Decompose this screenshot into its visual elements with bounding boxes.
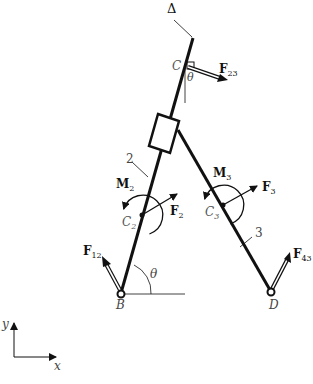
f12-arrowhead <box>102 256 111 267</box>
link-3 <box>178 130 270 290</box>
m3-label: M3 <box>213 167 231 182</box>
f12-label: F12 <box>83 245 102 260</box>
pivot-d <box>268 289 275 296</box>
theta-arc <box>134 265 151 294</box>
axis-x-label: x <box>54 360 61 372</box>
link-2-label: 2 <box>126 153 134 165</box>
theta-bottom-label: θ <box>150 268 157 280</box>
theta-top-label: θ <box>187 72 194 83</box>
f43-label: F43 <box>293 248 312 263</box>
axis-y-label: y <box>2 318 9 330</box>
f2-label: F2 <box>170 205 184 220</box>
delta-label: Δ <box>167 2 176 15</box>
c2-label: C2 <box>122 216 136 231</box>
b-label: B <box>116 299 125 311</box>
delta-leader <box>174 20 192 37</box>
mechanism-diagram: Δ C θ F23 2 M2 F2 C2 M3 F3 C3 3 F12 F43 … <box>0 0 313 384</box>
d-label: D <box>269 299 279 311</box>
leader-2 <box>132 162 148 177</box>
slider-block <box>149 114 179 153</box>
pivot-b <box>118 291 125 298</box>
link-3-label: 3 <box>255 227 263 239</box>
f23-label: F23 <box>219 63 238 78</box>
m2-label: M2 <box>116 178 134 193</box>
c3-label: C3 <box>205 206 219 221</box>
f3-arrow <box>223 186 257 205</box>
f3-label: F3 <box>262 181 276 196</box>
c-label: C <box>172 60 181 72</box>
